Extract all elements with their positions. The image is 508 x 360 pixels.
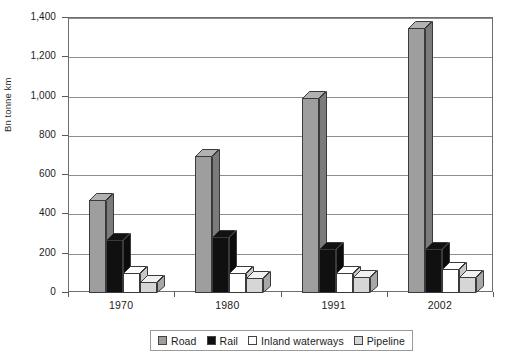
bar-front-face — [408, 28, 425, 293]
y-axis-title: Bn tonne km — [2, 32, 16, 132]
bar — [140, 275, 164, 293]
x-tick-label: 1980 — [192, 299, 262, 311]
bar-front-face — [195, 156, 212, 294]
plot-area — [68, 17, 493, 292]
bar-front-face — [140, 282, 157, 293]
legend-label: Rail — [220, 335, 239, 347]
bar-side-face — [263, 271, 271, 293]
bar-front-face — [425, 249, 442, 293]
x-tick-mark — [387, 292, 388, 297]
x-tick-mark — [68, 292, 69, 297]
bar-front-face — [212, 237, 229, 293]
y-tick-label: 800 — [0, 129, 56, 140]
x-tick-label: 1970 — [86, 299, 156, 311]
bar-front-face — [442, 269, 459, 293]
legend-item[interactable]: Pipeline — [354, 335, 405, 347]
x-tick-mark — [281, 292, 282, 297]
x-tick-mark — [493, 292, 494, 297]
bar — [459, 270, 483, 293]
legend-label: Pipeline — [367, 335, 405, 347]
x-tick-label: 1991 — [299, 299, 369, 311]
legend-label: Road — [171, 335, 197, 347]
y-tick-label: 1,200 — [0, 50, 56, 61]
legend-label: Inland waterways — [261, 335, 344, 347]
bar-front-face — [123, 273, 140, 293]
legend-swatch-icon — [158, 336, 167, 345]
chart-legend: RoadRailInland waterwaysPipeline — [150, 330, 413, 351]
legend-item[interactable]: Road — [158, 335, 197, 347]
bar-front-face — [89, 200, 106, 293]
bar-front-face — [459, 277, 476, 293]
y-tick-label: 200 — [0, 247, 56, 258]
y-tick-label: 600 — [0, 168, 56, 179]
legend-swatch-icon — [207, 336, 216, 345]
bar-front-face — [229, 273, 246, 293]
y-tick-label: 1,400 — [0, 11, 56, 22]
y-tick-label: 400 — [0, 207, 56, 218]
legend-swatch-icon — [248, 336, 257, 345]
bar-front-face — [319, 249, 336, 293]
bar-front-face — [106, 240, 123, 293]
bar — [246, 271, 270, 293]
legend-item[interactable]: Inland waterways — [248, 335, 344, 347]
x-tick-label: 2002 — [405, 299, 475, 311]
bar-front-face — [336, 273, 353, 293]
legend-item[interactable]: Rail — [207, 335, 239, 347]
bar — [353, 270, 377, 293]
y-tick-label: 1,000 — [0, 90, 56, 101]
bar-chart: Bn tonne km 1,4001,2001,0008006004002000… — [0, 0, 508, 360]
bar-side-face — [476, 270, 484, 293]
bar-side-face — [370, 270, 378, 293]
bar-front-face — [353, 277, 370, 293]
bar-front-face — [246, 278, 263, 293]
bar-side-face — [157, 275, 165, 293]
y-tick-label: 0 — [0, 286, 56, 297]
legend-swatch-icon — [354, 336, 363, 345]
x-tick-mark — [174, 292, 175, 297]
bar-front-face — [302, 98, 319, 293]
gridline — [69, 18, 492, 19]
